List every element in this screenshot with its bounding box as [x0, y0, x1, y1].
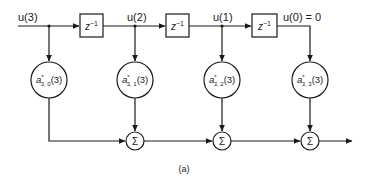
signal-label-u1: u(1)	[213, 11, 233, 23]
signal-label-u3: u(3)	[18, 11, 38, 23]
sigma-symbol-1: Σ	[132, 136, 138, 147]
coef-out-0	[49, 98, 125, 141]
junction-dot-1	[133, 24, 136, 27]
signal-label-u2: u(2)	[127, 11, 147, 23]
signal-line-4	[277, 26, 310, 61]
tapped-delay-line-diagram: u(3) u(2) u(1) u(0) = 0 z−1 z−1 z−1 a*3,…	[0, 0, 369, 184]
sigma-symbol-2: Σ	[219, 136, 225, 147]
junction-dot-2	[220, 24, 223, 27]
junction-dot-0	[47, 24, 50, 27]
figure-caption: (a)	[179, 164, 190, 174]
signal-label-u0: u(0) = 0	[283, 11, 321, 23]
sigma-symbol-3: Σ	[307, 136, 313, 147]
